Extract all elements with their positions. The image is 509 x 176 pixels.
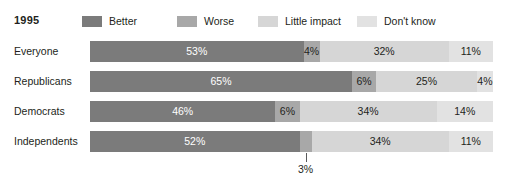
legend-swatch-dont-know <box>357 16 377 27</box>
bar-segment: 32% <box>320 41 449 62</box>
bar-segment: 25% <box>376 71 477 92</box>
bar-segment: 14% <box>437 101 493 122</box>
segment-value-label: 34% <box>370 131 391 152</box>
segment-value-label: 25% <box>416 71 437 92</box>
segment-value-label: 46% <box>172 101 193 122</box>
bar-segment: 53% <box>90 41 304 62</box>
segment-value-label: 11% <box>461 131 481 152</box>
stacked-bar: 52%3%3%34%11% <box>90 131 493 152</box>
row-label: Everyone <box>14 41 58 62</box>
legend-label-dont-know: Don't know <box>384 16 436 27</box>
legend-swatch-better <box>82 16 102 27</box>
bar-segment: 4% <box>477 71 493 92</box>
stacked-bar: 53%4%32%11% <box>90 41 493 62</box>
legend-item-worse: Worse <box>177 12 234 30</box>
bar-segment: 11% <box>449 131 493 152</box>
bar-segment: 4% <box>304 41 320 62</box>
chart-row: Everyone53%4%32%11% <box>0 41 509 62</box>
legend-swatch-little-impact <box>258 16 278 27</box>
legend-label-better: Better <box>109 16 137 27</box>
chart-row: Independents52%3%3%34%11% <box>0 131 509 152</box>
legend-label-little-impact: Little impact <box>285 16 341 27</box>
stacked-bar: 65%6%25%4% <box>90 71 493 92</box>
legend-swatch-worse <box>177 16 197 27</box>
segment-value-label: 52% <box>184 131 205 152</box>
stacked-bar-chart: 1995 Better Worse Little impact Don't kn… <box>0 0 509 176</box>
bar-segment: 52% <box>90 131 300 152</box>
bar-segment: 46% <box>90 101 275 122</box>
segment-value-label: 34% <box>358 101 379 122</box>
segment-value-label: 65% <box>210 71 231 92</box>
bar-segment: 6% <box>275 101 299 122</box>
row-label: Independents <box>14 131 78 152</box>
segment-value-label: 4% <box>477 71 492 92</box>
bar-segment: 34% <box>312 131 449 152</box>
bar-segment: 34% <box>300 101 437 122</box>
segment-value-label: 4% <box>304 41 319 62</box>
segment-callout: 3% <box>286 152 326 176</box>
segment-value-label: 32% <box>374 41 395 62</box>
callout-value-label: 3% <box>286 163 326 175</box>
chart-row: Democrats46%6%34%14% <box>0 101 509 122</box>
segment-value-label: 6% <box>280 101 295 122</box>
segment-value-label: 14% <box>454 101 475 122</box>
legend-item-dont-know: Don't know <box>357 12 436 30</box>
bar-segment: 3%3% <box>300 131 312 152</box>
chart-rows: Everyone53%4%32%11%Republicans65%6%25%4%… <box>0 41 509 161</box>
segment-value-label: 53% <box>186 41 207 62</box>
row-label: Republicans <box>14 71 72 92</box>
segment-value-label: 6% <box>356 71 371 92</box>
row-label: Democrats <box>14 101 65 122</box>
bar-segment: 6% <box>352 71 376 92</box>
bar-segment: 65% <box>90 71 352 92</box>
legend-item-little-impact: Little impact <box>258 12 341 30</box>
stacked-bar: 46%6%34%14% <box>90 101 493 122</box>
legend-item-better: Better <box>82 12 137 30</box>
callout-leader-line <box>306 153 307 162</box>
chart-row: Republicans65%6%25%4% <box>0 71 509 92</box>
page-title: 1995 <box>14 14 39 26</box>
segment-value-label: 11% <box>461 41 481 62</box>
bar-segment: 11% <box>449 41 493 62</box>
chart-header: 1995 Better Worse Little impact Don't kn… <box>0 12 509 32</box>
legend-label-worse: Worse <box>204 16 234 27</box>
